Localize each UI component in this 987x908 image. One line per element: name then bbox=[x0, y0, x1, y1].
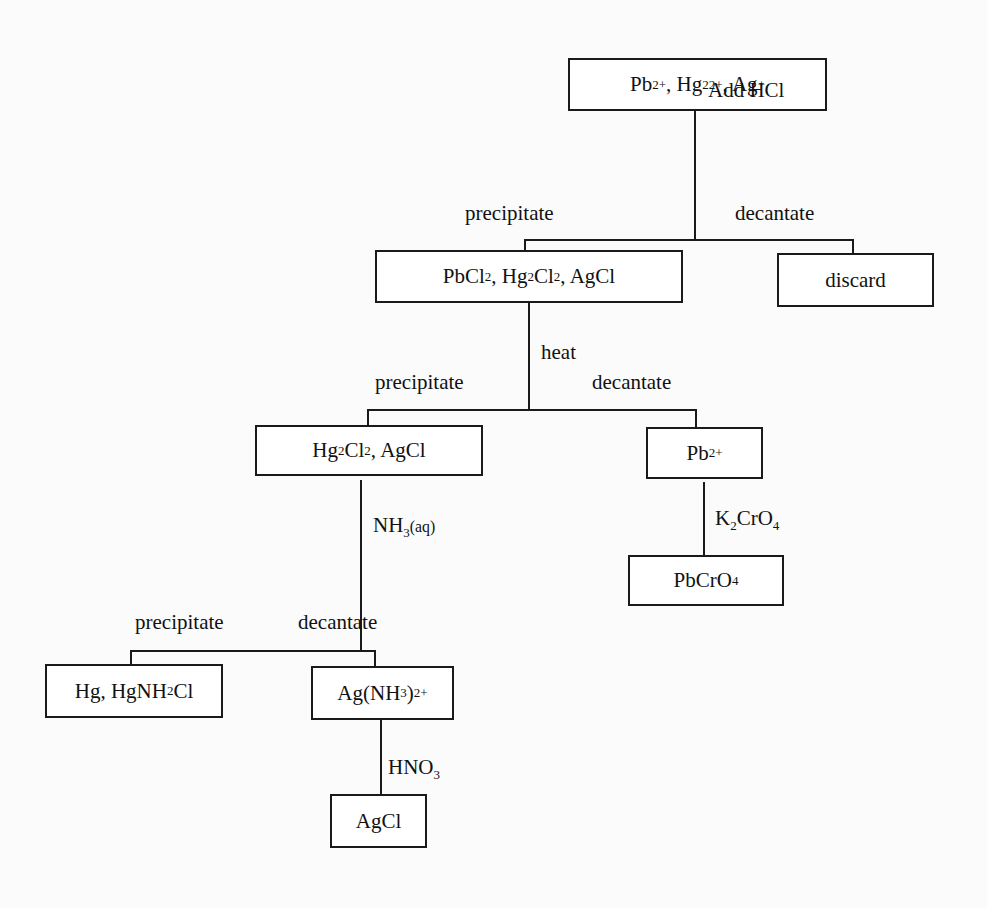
node-lead-chromate: PbCrO4 bbox=[628, 555, 784, 606]
branch-label-precipitate: precipitate bbox=[375, 372, 464, 393]
split-line bbox=[367, 409, 697, 411]
connector-line bbox=[695, 409, 697, 428]
connector-line bbox=[703, 482, 705, 556]
node-chloride-precipitate: PbCl2, Hg2Cl2, AgCl bbox=[375, 250, 683, 303]
reagent-nitric-acid: HNO3 bbox=[388, 757, 440, 778]
node-silver-chloride: AgCl bbox=[330, 794, 427, 848]
reagent-potassium-chromate: K2CrO4 bbox=[715, 508, 779, 529]
node-discard: discard bbox=[777, 253, 934, 307]
branch-label-precipitate: precipitate bbox=[465, 203, 554, 224]
node-silver-ammine-complex: Ag(NH3)2+ bbox=[311, 666, 454, 720]
reagent-add-hcl: Add HCl bbox=[708, 80, 784, 101]
split-line bbox=[130, 650, 376, 652]
connector-line bbox=[694, 110, 696, 241]
branch-label-decantate: decantate bbox=[298, 612, 377, 633]
connector-line bbox=[852, 239, 854, 253]
branch-label-decantate: decantate bbox=[735, 203, 814, 224]
node-mercury-products: Hg, HgNH2Cl bbox=[45, 664, 223, 718]
connector-line bbox=[367, 409, 369, 426]
node-hg-ag-chlorides: Hg2Cl2, AgCl bbox=[255, 425, 483, 476]
separation-flowchart: Pb2+, Hg22+, Ag+ Add HCl precipitate dec… bbox=[0, 0, 987, 908]
node-start-ions: Pb2+, Hg22+, Ag+ bbox=[568, 58, 827, 111]
reagent-aqueous-ammonia: NH3(aq) bbox=[373, 515, 435, 536]
connector-line bbox=[380, 719, 382, 795]
connector-line bbox=[130, 650, 132, 665]
node-lead-ion: Pb2+ bbox=[646, 427, 763, 479]
connector-line bbox=[528, 302, 530, 410]
reagent-heat: heat bbox=[541, 342, 576, 363]
connector-line bbox=[374, 650, 376, 667]
branch-label-decantate: decantate bbox=[592, 372, 671, 393]
branch-label-precipitate: precipitate bbox=[135, 612, 224, 633]
split-line bbox=[524, 239, 854, 241]
